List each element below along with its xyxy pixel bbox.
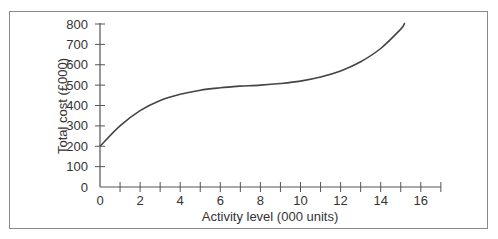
x-tick-label: 0	[96, 193, 103, 208]
x-tick-label: 10	[293, 193, 307, 208]
total-cost-chart: 01002003004005006007008000246810121416 A…	[0, 0, 498, 239]
x-tick-label: 12	[333, 193, 347, 208]
x-tick-label: 2	[136, 193, 143, 208]
x-axis-title: Activity level (000 units)	[202, 209, 339, 224]
x-tick-label: 14	[373, 193, 387, 208]
y-tick-label: 800	[66, 17, 88, 32]
x-tick-label: 16	[414, 193, 428, 208]
x-tick-label: 4	[177, 193, 184, 208]
x-tick-label: 8	[257, 193, 264, 208]
total-cost-curve	[100, 23, 405, 146]
y-tick-label: 100	[66, 159, 88, 174]
y-tick-label: 700	[66, 37, 88, 52]
x-tick-label: 6	[217, 193, 224, 208]
y-tick-label: 0	[81, 180, 88, 195]
y-axis-title: Total cost (£000)	[55, 58, 70, 154]
